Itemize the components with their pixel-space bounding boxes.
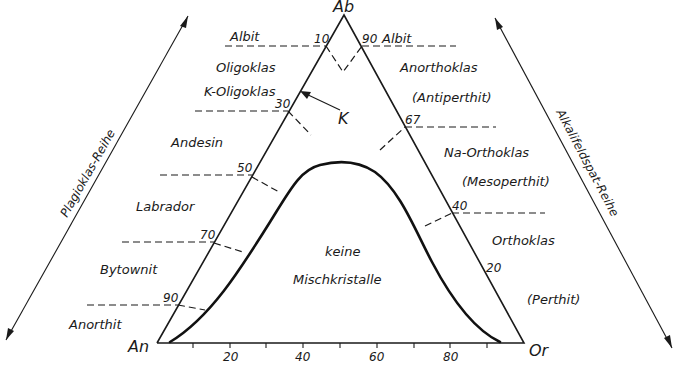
field-orthoklas: Orthoklas bbox=[492, 233, 555, 248]
vertex-or: Or bbox=[529, 341, 550, 360]
field-perthit: (Perthit) bbox=[527, 292, 580, 307]
plagioclase-series-label: Plagioklas-Reihe bbox=[57, 127, 118, 220]
field-bytownit: Bytownit bbox=[100, 262, 158, 277]
field-oligoklas: Oligoklas bbox=[216, 60, 276, 75]
field-albit-left: Albit bbox=[229, 29, 260, 44]
field-albit-right: Albit bbox=[381, 31, 412, 46]
left-tick-90: 90 bbox=[163, 291, 179, 305]
plagioclase-series-arrow bbox=[6, 16, 188, 340]
base-tick-20: 20 bbox=[223, 350, 239, 364]
k-pointer-arrow bbox=[300, 91, 340, 110]
vertex-ab: Ab bbox=[332, 0, 354, 16]
base-tick-80: 80 bbox=[443, 350, 459, 364]
field-k-oligoklas: K-Oligoklas bbox=[204, 84, 276, 99]
field-andesin: Andesin bbox=[170, 135, 223, 150]
field-anorthit: Anorthit bbox=[68, 317, 122, 332]
left-tick-70: 70 bbox=[200, 228, 216, 242]
field-labrador: Labrador bbox=[136, 199, 196, 214]
left-tick-30: 30 bbox=[275, 97, 291, 111]
left-tick-10: 10 bbox=[314, 32, 330, 46]
right-tick-67: 67 bbox=[405, 113, 421, 127]
vertex-an: An bbox=[127, 337, 149, 356]
field-anorthoklas: Anorthoklas bbox=[399, 60, 478, 75]
field-mesoperthit: (Mesoperthit) bbox=[462, 174, 550, 189]
field-na-orthoklas: Na-Orthoklas bbox=[444, 145, 529, 160]
region-label-keine: keine bbox=[325, 244, 360, 259]
right-tick-40: 40 bbox=[452, 199, 468, 213]
base-tick-40: 40 bbox=[295, 350, 311, 364]
left-tick-50: 50 bbox=[237, 161, 253, 175]
alkali-series-label: Alkalifeldspat-Reihe bbox=[553, 106, 622, 219]
right-tick-90: 90 bbox=[362, 32, 378, 46]
region-label-mischkristalle: Mischkristalle bbox=[293, 272, 382, 287]
k-pointer-label: K bbox=[338, 109, 350, 128]
base-tick-60: 60 bbox=[369, 350, 385, 364]
field-antiperthit: (Antiperthit) bbox=[412, 90, 492, 105]
right-tick-20: 20 bbox=[486, 261, 502, 275]
feldspar-ternary-diagram: Plagioklas-Reihe Alkalifeldspat-Reihe 20… bbox=[0, 0, 680, 367]
